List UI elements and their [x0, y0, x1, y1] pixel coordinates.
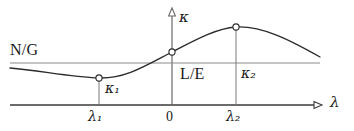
tick-label-lambda1: λ₁	[88, 109, 103, 123]
ng-level-label: N/G	[10, 42, 38, 58]
figure-root: N/G L/E κ λ κ₁ κ₂ λ₁ 0 λ₂	[0, 0, 354, 131]
origin-marker	[169, 49, 175, 55]
lambda-axis-label: λ	[330, 95, 340, 110]
plot-canvas	[0, 0, 354, 131]
tick-label-lambda2: λ₂	[226, 109, 241, 123]
tick-label-zero: 0	[166, 110, 173, 124]
kappa1-label: κ₁	[105, 81, 120, 95]
kappa-axis-arrowhead	[169, 8, 176, 16]
kappa1-marker	[96, 75, 102, 81]
kappa2-marker	[233, 24, 239, 30]
le-region-label: L/E	[180, 66, 205, 82]
kappa-axis-label: κ	[179, 10, 189, 25]
lambda-axis-arrowhead	[314, 102, 322, 109]
dispersion-curve	[10, 27, 320, 78]
kappa2-label: κ₂	[241, 66, 256, 80]
